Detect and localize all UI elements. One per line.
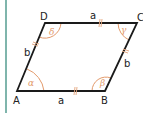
side-label-ad: b — [24, 47, 30, 58]
left-border-bar — [5, 0, 7, 113]
vertex-label-a: A — [13, 95, 20, 106]
vertex-label-b: B — [101, 95, 108, 106]
side-label-bc: b — [124, 58, 130, 69]
parallelogram-diagram: A B C D a a b b α β γ δ — [0, 0, 143, 113]
vertex-label-d: D — [40, 11, 48, 22]
side-label-ab: a — [58, 95, 64, 106]
side-label-dc: a — [90, 10, 96, 21]
angle-label-delta: δ — [49, 27, 54, 37]
parallelogram-shape — [17, 23, 137, 91]
angle-label-alpha: α — [28, 78, 34, 88]
angle-label-gamma: γ — [121, 25, 127, 35]
angle-label-beta: β — [99, 78, 105, 88]
vertex-label-c: C — [137, 12, 143, 23]
tick-marks — [32, 19, 129, 95]
